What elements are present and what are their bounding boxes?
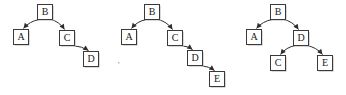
tree-figure-container: BACDBACDEBADCE bbox=[0, 0, 346, 95]
scan-artifacts bbox=[0, 0, 346, 95]
scan-speck bbox=[118, 62, 120, 64]
